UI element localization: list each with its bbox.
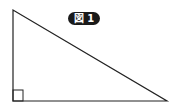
right-angle-marker [13,90,23,101]
figure-label: 図 1 [68,12,100,25]
